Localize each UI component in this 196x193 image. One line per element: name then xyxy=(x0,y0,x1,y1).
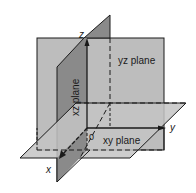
x-axis-label: x xyxy=(45,164,52,175)
yz-plane-label: yz plane xyxy=(118,55,156,66)
xz-plane-label: xz plane xyxy=(70,78,81,116)
xz-plane-top xyxy=(84,15,110,38)
y-axis-label: y xyxy=(169,122,176,133)
z-axis-label: z xyxy=(78,29,84,40)
origin-label: 0 xyxy=(89,132,94,142)
coordinate-planes-diagram: z y x 0 yz plane xy plane xz plane xyxy=(0,0,196,193)
xy-plane-label: xy plane xyxy=(103,135,141,146)
